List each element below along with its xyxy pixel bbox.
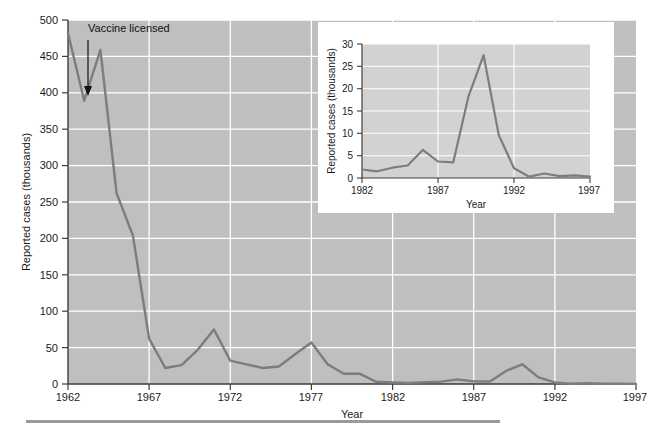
main-y-tick-label: 100 (40, 305, 58, 317)
inset-x-tick-label: 1987 (427, 185, 450, 196)
figure-container: 500 450 400 350 300 250 200 150 100 50 0… (0, 0, 654, 434)
main-x-tick-label: 1977 (299, 391, 323, 403)
main-y-tick-label: 300 (40, 159, 58, 171)
inset-x-tick-label: 1997 (578, 185, 601, 196)
main-y-tick-label: 50 (46, 342, 58, 354)
main-x-tick-label: 1997 (623, 391, 647, 403)
annotation-label: Vaccine licensed (88, 22, 170, 34)
inset-y-tick-label: 5 (347, 150, 353, 161)
inset-y-tick-label: 30 (342, 39, 354, 50)
main-x-ticks (68, 384, 636, 390)
main-y-tick-label: 350 (40, 123, 58, 135)
main-x-tick-label: 1967 (137, 391, 161, 403)
main-y-tick-labels: 500 450 400 350 300 250 200 150 100 50 0 (40, 14, 58, 390)
main-y-tick-label: 400 (40, 86, 58, 98)
inset-y-axis-title: Reported cases (thousands) (326, 48, 337, 174)
main-y-tick-label: 0 (52, 378, 58, 390)
main-x-tick-label: 1987 (462, 391, 486, 403)
inset-x-tick-label: 1982 (351, 185, 374, 196)
main-y-tick-label: 450 (40, 50, 58, 62)
main-x-tick-label: 1972 (218, 391, 242, 403)
inset-y-tick-label: 0 (347, 173, 353, 184)
main-y-axis-title: Reported cases (thousands) (20, 133, 32, 271)
main-x-tick-label: 1982 (381, 391, 405, 403)
inset-y-tick-label: 25 (342, 61, 354, 72)
main-y-tick-label: 150 (40, 269, 58, 281)
main-x-tick-label: 1992 (543, 391, 567, 403)
main-y-ticks (62, 20, 68, 384)
main-x-tick-label: 1962 (56, 391, 80, 403)
inset-y-tick-label: 20 (342, 83, 354, 94)
measles-cases-line-chart: 500 450 400 350 300 250 200 150 100 50 0… (0, 0, 654, 434)
inset-y-tick-label: 10 (342, 128, 354, 139)
inset-x-tick-label: 1992 (503, 185, 526, 196)
inset-y-tick-label: 15 (342, 106, 354, 117)
main-y-tick-label: 500 (40, 14, 58, 26)
main-x-axis-title: Year (341, 408, 364, 420)
main-y-tick-label: 200 (40, 232, 58, 244)
main-x-tick-labels: 1962 1967 1972 1977 1982 1987 1992 1997 (56, 391, 647, 403)
inset-x-axis-title: Year (466, 199, 487, 210)
main-y-tick-label: 250 (40, 196, 58, 208)
